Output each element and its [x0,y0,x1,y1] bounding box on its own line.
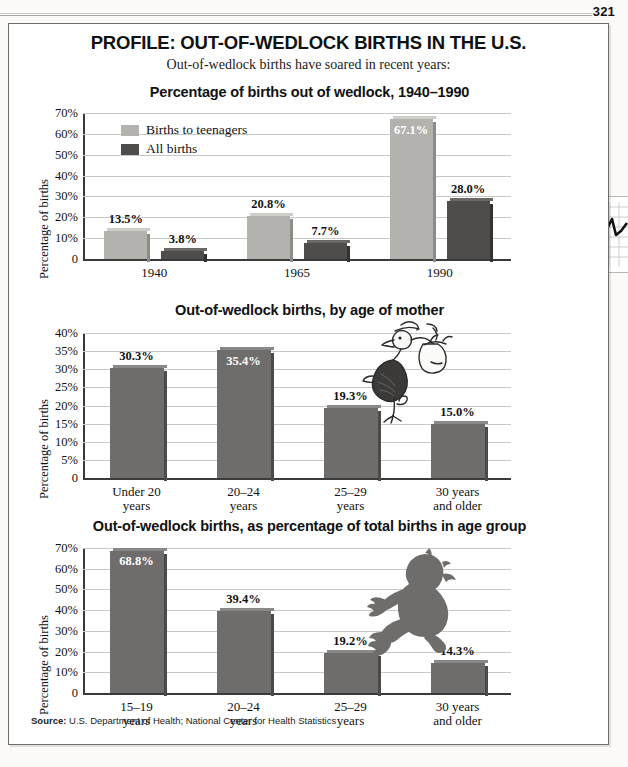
bar-value-label: 13.5% [92,212,159,227]
chart-1-y-axis [83,113,85,259]
y-axis-tick-label: 10% [55,434,78,449]
source-text: U.S. Department of Health; National Cent… [69,715,336,726]
y-axis-tick-label: 40% [55,168,78,183]
bar-face [161,251,204,259]
y-axis-tick-label: 30% [55,362,78,377]
chart-1-title: Percentage of births out of wedlock, 194… [9,84,610,100]
bar-value-label: 39.4% [205,592,283,607]
y-axis-tick-label: 0 [72,252,78,267]
y-axis-tick-label: 50% [55,582,78,597]
source-note: Source: U.S. Department of Health; Natio… [31,715,336,726]
y-axis-tick-label: 50% [55,147,78,162]
bar-births-to-teenagers-1940 [104,231,147,259]
figure-title: PROFILE: OUT-OF-WEDLOCK BIRTHS IN THE U.… [9,32,608,54]
y-axis-tick-label: 30% [55,623,78,638]
figure-frame: PROFILE: OUT-OF-WEDLOCK BIRTHS IN THE U.… [8,23,609,745]
stork-illustration [361,314,461,428]
bar-face [247,216,290,259]
bar-value-label: 3.8% [149,232,216,247]
legend-swatch-light-icon [121,125,139,136]
chart-3-title: Out-of-wedlock births, as percentage of … [9,518,610,534]
bar-face [447,201,490,259]
bar-20–24-years [217,611,271,693]
y-axis-tick-label: 0 [72,686,78,701]
y-axis-tick-label: 60% [55,126,78,141]
bar-side-face [485,666,488,696]
bar-side-face [490,204,493,262]
bar-face [304,243,347,259]
bar-top-face [113,548,167,551]
chart-2-y-axis-label: Percentage of births [37,399,52,499]
chart-2-x-axis [83,478,511,480]
gridline [83,113,511,114]
y-axis-tick-label: 20% [55,644,78,659]
x-axis-category-label: 1990 [356,266,523,280]
bar-side-face [271,614,274,696]
bar-face [217,350,271,478]
y-axis-tick-label: 20% [55,398,78,413]
y-axis-tick-label: 10% [55,231,78,246]
bar-all-births-1940 [161,251,204,259]
bar-top-face [450,198,493,201]
bar-under-20-years [110,368,164,478]
chart-1-births-out-of-wedlock-1940-1990: Percentage of births out of wedlock, 194… [9,84,610,294]
y-axis-tick-label: 40% [55,326,78,341]
bar-top-face [250,213,293,216]
bar-face [390,119,433,259]
y-axis-tick-label: 70% [55,106,78,121]
bar-side-face [204,254,207,262]
y-axis-tick-label: 70% [55,541,78,556]
source-label: Source: [31,715,66,726]
bar-side-face [164,371,167,481]
bar-face [431,424,485,478]
chart-2-births-by-age-of-mother: Out-of-wedlock births, by age of mother … [9,302,610,514]
bar-top-face [393,116,436,119]
baby-illustration [345,546,467,668]
legend-swatch-dark-icon [121,144,139,155]
bar-value-label: 67.1% [378,123,445,138]
chart-3-y-axis-label: Percentage of births [37,615,52,715]
y-axis-tick-label: 30% [55,189,78,204]
y-axis-tick-label: 15% [55,416,78,431]
bar-side-face [485,427,488,481]
y-axis-tick-label: 60% [55,561,78,576]
bar-top-face [220,347,274,350]
bar-side-face [164,554,167,697]
y-axis-tick-label: 35% [55,344,78,359]
gridline [83,176,511,177]
bar-face [110,368,164,478]
page-top-rule [0,13,592,16]
legend-label: All births [146,141,197,157]
page-number: 321 [593,4,615,19]
y-axis-tick-label: 5% [61,452,78,467]
bar-all-births-1990 [447,201,490,259]
bar-births-to-teenagers-1990 [390,119,433,259]
bar-value-label: 7.7% [292,224,359,239]
x-axis-category-label: 30 years and older [392,485,523,513]
bar-all-births-1965 [304,243,347,259]
chart-3-x-axis [83,693,511,695]
bar-value-label: 20.8% [235,197,302,212]
bar-top-face [220,608,274,611]
bar-value-label: 35.4% [205,354,283,369]
bar-top-face [307,240,350,243]
bar-face [110,551,164,694]
bar-top-face [113,365,167,368]
y-axis-tick-label: 25% [55,380,78,395]
bar-value-label: 28.0% [435,182,502,197]
bar-value-label: 68.8% [98,554,176,569]
x-axis-category-label: 1965 [214,266,381,280]
x-axis-category-label: 30 years and older [392,700,523,728]
bar-30-years-and-older [431,424,485,478]
legend-label: Births to teenagers [146,122,247,138]
bar-face [217,611,271,693]
bar-value-label: 30.3% [98,349,176,364]
bar-side-face [347,246,350,262]
bar-top-face [107,228,150,231]
chart-3-births-as-percentage-of-total-in-age-group: Out-of-wedlock births, as percentage of … [9,518,610,730]
chart-3-y-axis [83,548,85,693]
chart-1-y-axis-label: Percentage of births [37,179,52,279]
figure-subtitle: Out-of-wedlock births have soared in rec… [9,57,608,73]
bar-top-face [164,248,207,251]
y-axis-tick-label: 40% [55,603,78,618]
